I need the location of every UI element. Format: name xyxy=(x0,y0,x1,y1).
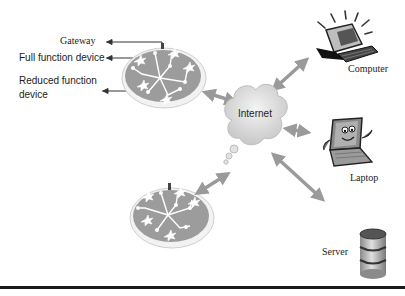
mesh-network-disc-icon xyxy=(130,183,214,248)
internet-label: Internet xyxy=(238,108,272,120)
desktop-computer-icon xyxy=(316,11,378,62)
reduced-function-device-label-line1: Reduced function xyxy=(19,75,97,87)
bottom-divider xyxy=(0,286,405,289)
gateway-label: Gateway xyxy=(60,35,96,46)
reduced-function-device-label-line2: device xyxy=(19,89,48,101)
database-server-icon xyxy=(360,229,386,279)
full-function-device-label: Full function device xyxy=(19,52,105,64)
mesh-network-disc-icon xyxy=(122,43,206,108)
laptop-icon xyxy=(324,118,372,166)
cloud-icon xyxy=(224,84,287,164)
server-label: Server xyxy=(322,246,348,257)
laptop-label: Laptop xyxy=(350,172,378,183)
computer-label: Computer xyxy=(348,63,388,74)
